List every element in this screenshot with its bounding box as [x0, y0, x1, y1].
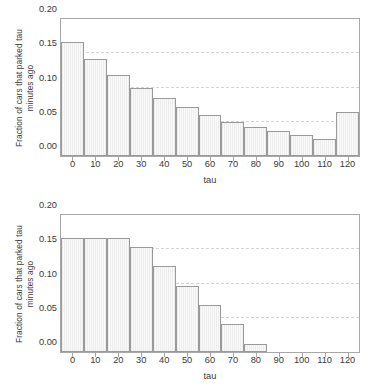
bar: [176, 107, 199, 156]
bar: [61, 42, 84, 156]
bar: [267, 131, 290, 156]
bar: [221, 324, 244, 352]
bar: [107, 75, 130, 156]
bar: [84, 59, 107, 156]
y-tick-labels-top: 0.000.050.100.150.20: [0, 18, 57, 157]
x-tick-label: 120: [333, 355, 363, 365]
bar: [199, 115, 222, 156]
bars-bottom: [61, 215, 359, 352]
bar: [290, 135, 313, 156]
bar: [199, 305, 222, 352]
figure: Fraction of cars that parked tau minutes…: [0, 0, 373, 391]
y-tick-label: 0.05: [1, 107, 57, 117]
x-tick-labels-bottom: 0102030405060708090100110120: [60, 355, 360, 369]
bar: [336, 112, 359, 156]
y-tick-label: 0.15: [1, 38, 57, 48]
bars-top: [61, 19, 359, 156]
bar: [107, 238, 130, 352]
bar: [61, 238, 84, 352]
bar: [153, 266, 176, 352]
y-tick-label: 0.20: [1, 4, 57, 14]
clipped-top-title: [120, 0, 280, 3]
bar: [130, 247, 153, 352]
y-tick-label: 0.10: [1, 73, 57, 83]
bar: [313, 139, 336, 156]
bar: [130, 88, 153, 157]
y-tick-label: 0.15: [1, 234, 57, 244]
bar: [84, 238, 107, 352]
bar: [221, 122, 244, 156]
x-axis-title-top: tau: [60, 175, 360, 185]
y-tick-labels-bottom: 0.000.050.100.150.20: [0, 214, 57, 353]
chart-panel-bottom: Fraction of cars that parked tau minutes…: [0, 196, 373, 391]
bar: [244, 344, 267, 352]
y-tick-label: 0.00: [1, 141, 57, 151]
x-axis-title-bottom: tau: [60, 371, 360, 381]
chart-panel-top: Fraction of cars that parked tau minutes…: [0, 0, 373, 195]
bar: [244, 127, 267, 156]
y-tick-label: 0.05: [1, 303, 57, 313]
plot-area-bottom: [60, 214, 360, 353]
plot-area-top: [60, 18, 360, 157]
x-tick-labels-top: 0102030405060708090100110120: [60, 159, 360, 173]
bar: [176, 286, 199, 352]
bar: [153, 98, 176, 156]
x-tick-label: 120: [333, 159, 363, 169]
y-tick-label: 0.20: [1, 200, 57, 210]
y-tick-label: 0.10: [1, 269, 57, 279]
y-tick-label: 0.00: [1, 337, 57, 347]
